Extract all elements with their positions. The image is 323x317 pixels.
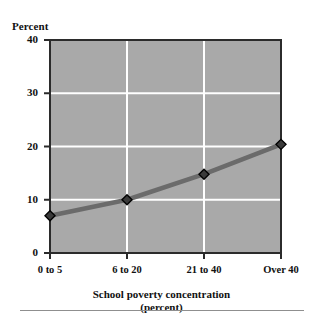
y-tick-label: 30 <box>12 87 38 98</box>
x-axis-title-line2: (percent) <box>0 301 323 315</box>
x-tick-label: 21 to 40 <box>187 265 222 276</box>
y-tick-label: 0 <box>12 247 38 258</box>
footer-rule <box>20 310 304 311</box>
y-tick-label: 40 <box>12 34 38 45</box>
x-axis-title: School poverty concentration <box>0 288 323 302</box>
y-tick-label: 10 <box>12 194 38 205</box>
y-tick-label: 20 <box>12 141 38 152</box>
x-tick-label: 6 to 20 <box>112 265 142 276</box>
y-axis-title: Percent <box>12 20 49 32</box>
chart-figure: Percent 403020100 0 to 56 to 2021 to 40O… <box>0 0 323 317</box>
x-tick-label: 0 to 5 <box>38 265 63 276</box>
x-tick-label: Over 40 <box>263 265 299 276</box>
